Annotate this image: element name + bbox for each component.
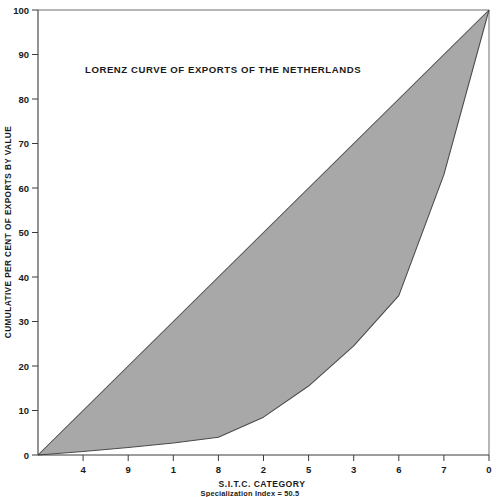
x-tick-label-10: 0	[486, 464, 491, 475]
y-tick-label-80: 80	[18, 94, 29, 105]
x-tick-label-5: 2	[261, 464, 266, 475]
y-tick-label-90: 90	[18, 49, 29, 60]
chart-title: LORENZ CURVE OF EXPORTS OF THE NETHERLAN…	[85, 64, 361, 75]
x-tick-label-9: 7	[441, 464, 446, 475]
y-tick-label-70: 70	[18, 138, 29, 149]
y-tick-label-20: 20	[18, 361, 29, 372]
x-tick-label-4: 8	[216, 464, 221, 475]
y-axis-title: CUMULATIVE PER CENT OF EXPORTS BY VALUE	[4, 126, 13, 338]
y-tick-label-50: 50	[18, 227, 29, 238]
chart-svg: 100 90 80 70 60 50 40 30 20 10 0	[0, 0, 497, 497]
x-tick-label-6: 5	[306, 464, 312, 475]
y-tick-label-40: 40	[18, 272, 29, 283]
y-tick-label-60: 60	[18, 183, 29, 194]
x-tick-label-7: 3	[351, 464, 356, 475]
x-tick-label-8: 6	[396, 464, 401, 475]
x-tick-label-2: 9	[126, 464, 131, 475]
y-tick-label-100: 100	[13, 5, 29, 16]
y-tick-label-30: 30	[18, 316, 29, 327]
x-tick-label-3: 1	[171, 464, 177, 475]
lorenz-curve-figure: 100 90 80 70 60 50 40 30 20 10 0	[0, 0, 497, 497]
y-tick-label-10: 10	[18, 405, 29, 416]
x-tick-label-1: 4	[80, 464, 86, 475]
y-tick-label-0: 0	[24, 450, 29, 461]
x-axis-title: S.I.T.C. CATEGORY	[219, 479, 306, 489]
specialization-index-note: Specialization Index = 50.5	[201, 489, 300, 497]
